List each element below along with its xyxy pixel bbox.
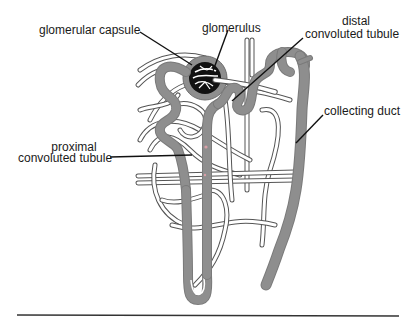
nephron-diagram: glomerular capsule glomerulus distal con… (0, 0, 418, 319)
label-glomerular-capsule: glomerular capsule (39, 24, 140, 36)
label-glomerulus: glomerulus (202, 22, 261, 34)
label-collecting-duct: collecting duct (324, 105, 400, 117)
label-distal-line1: distal (306, 15, 406, 27)
label-proximal-line2: convoluted tubule (18, 152, 112, 164)
baseline-rule (17, 315, 399, 316)
label-distal-line2: convoluted tubule (305, 28, 399, 40)
